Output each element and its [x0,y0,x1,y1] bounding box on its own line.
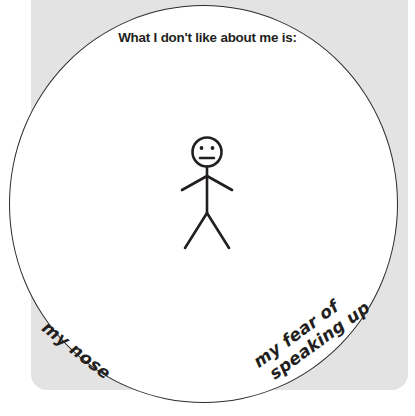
page-title: What I don't like about me is: [0,30,415,45]
worksheet-canvas: What I don't like about me is: [0,0,415,416]
figure-head [193,138,222,167]
figure-arm-right [207,176,232,190]
stick-figure [160,120,255,260]
figure-eye-right [211,146,215,150]
stick-figure-icon [160,120,255,260]
figure-eye-left [200,146,204,150]
figure-arm-left [182,176,207,190]
figure-leg-right [207,213,229,248]
figure-leg-left [185,213,207,248]
